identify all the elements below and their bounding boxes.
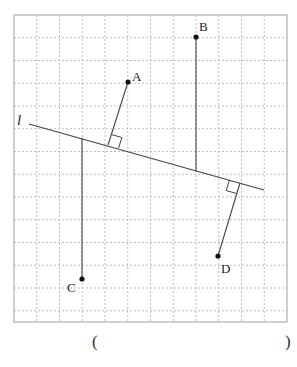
answer-close-paren: ) bbox=[285, 333, 291, 350]
point-b-dot bbox=[193, 34, 198, 39]
segment-a bbox=[108, 82, 128, 145]
geometry-figure bbox=[0, 0, 297, 367]
line-l bbox=[29, 124, 264, 190]
point-c-label: C bbox=[67, 281, 76, 294]
answer-blank[interactable] bbox=[102, 330, 282, 354]
point-a-dot bbox=[125, 79, 130, 84]
right-angle-marker-a bbox=[111, 135, 122, 148]
point-b-label: B bbox=[199, 20, 208, 33]
point-a-label: A bbox=[132, 70, 141, 83]
line-l-label: l bbox=[17, 113, 21, 128]
point-d-label: D bbox=[221, 262, 230, 275]
answer-open-paren: ( bbox=[92, 333, 98, 350]
point-d-dot bbox=[215, 253, 220, 258]
point-c-dot bbox=[79, 276, 84, 281]
